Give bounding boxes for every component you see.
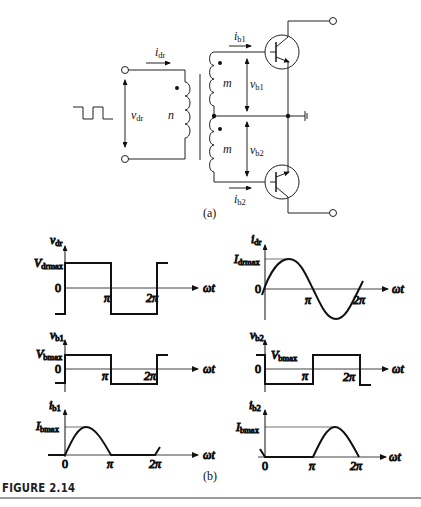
idr-label: idr (155, 45, 166, 60)
ib1-label: ib1 (234, 29, 246, 44)
vb1-wt-label: ωt (203, 362, 215, 376)
square-wave-symbol (73, 107, 113, 119)
ib2-wt-label: ωt (389, 450, 401, 464)
vb2-zero-label: 0 (255, 362, 261, 376)
vb1-bmax-tick-label: Vbmax (36, 347, 63, 362)
vb1-label: vb1 (250, 77, 264, 92)
ib1-bmax-tick-label: Ibmax (35, 419, 60, 434)
ib1-axis-label: ib1 (49, 398, 61, 413)
vb2-2pi-label: 2π (343, 370, 356, 384)
vb2-pi-label: π (302, 369, 309, 383)
chart-ib1 (48, 410, 198, 457)
caption-rule (0, 497, 421, 499)
center-tap-node (212, 114, 216, 118)
chart-ib2 (258, 410, 386, 458)
secondary-coil-top (210, 52, 214, 106)
secondary-dot-bottom (218, 127, 222, 131)
ib1-pi-label: π (107, 457, 114, 471)
idr-zero-label: 0 (255, 282, 261, 296)
chart-idr (262, 245, 388, 320)
chart-vdr (55, 246, 198, 314)
chart-vb1 (55, 340, 198, 392)
primary-dot (175, 86, 179, 90)
ib2-2pi-label: 2π (350, 459, 363, 473)
input-terminal-bottom (122, 156, 129, 163)
ib2-zero-label: 0 (262, 459, 268, 473)
input-terminal-top (122, 67, 129, 74)
ib1-2pi-label: 2π (149, 457, 162, 471)
vb1-axis-label: vb1 (50, 328, 64, 343)
vb2-axis-label: vb2 (250, 328, 264, 343)
ground-icon (305, 111, 307, 121)
secondary-turns-top-label: m (223, 76, 232, 90)
ib1-wt-label: ωt (203, 448, 215, 462)
vb2-bmax-tick-label: Vbmax (271, 348, 298, 363)
idr-2pi-label: 2π (353, 293, 366, 307)
idrmax-tick-label: Idrmax (233, 252, 260, 267)
collector-terminal-bottom (330, 210, 337, 217)
figure-caption: FIGURE 2.14 (2, 481, 75, 495)
vdr-2pi-label: 2π (146, 291, 159, 305)
idr-pi-label: π (305, 293, 312, 307)
vb1-zero-label: 0 (55, 362, 61, 376)
vb2-label: vb2 (250, 143, 264, 158)
collector-terminal-top (330, 18, 337, 25)
vb1-pi-label: π (102, 369, 109, 383)
transistor-q2 (265, 116, 330, 213)
vdr-pi-label: π (104, 291, 111, 305)
ib2-pi-label: π (309, 459, 316, 473)
secondary-dot-top (218, 61, 222, 65)
vdr-wt-label: ωt (203, 281, 215, 295)
vdr-label: vdr (131, 108, 144, 123)
transistor-q1 (265, 21, 330, 116)
subfigure-a-label: (a) (203, 206, 216, 220)
subfigure-b-label: (b) (203, 469, 217, 483)
ib2-bmax-tick-label: Ibmax (235, 420, 260, 435)
vb2-wt-label: ωt (392, 362, 404, 376)
vdrmax-tick-label: Vdrmax (34, 256, 64, 271)
ib1-zero-label: 0 (62, 457, 68, 471)
figure-canvas: idr vdr n m m vb1 vb2 ib1 ib2 (a) vdr Vd… (0, 0, 421, 507)
vb1-2pi-label: 2π (144, 369, 157, 383)
ib2-label: ib2 (234, 192, 246, 207)
secondary-coil-bottom (210, 116, 214, 172)
secondary-turns-bottom-label: m (223, 142, 232, 156)
idr-axis-label: idr (251, 232, 262, 247)
primary-coil (185, 82, 190, 138)
ib2-axis-label: ib2 (249, 398, 261, 413)
idr-wt-label: ωt (392, 282, 404, 296)
primary-turns-label: n (168, 108, 174, 122)
vdr-zero-label: 0 (55, 281, 61, 295)
vdr-axis-label: vdr (50, 233, 63, 248)
circuit-diagram (73, 18, 337, 217)
